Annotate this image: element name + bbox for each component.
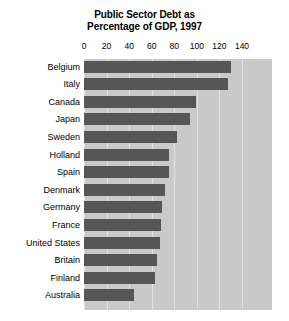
bar-row	[84, 272, 155, 284]
y-axis-category-labels: BelgiumItalyCanadaJapanSwedenHollandSpai…	[0, 59, 80, 310]
bar-united-states	[84, 237, 160, 249]
bar-japan	[84, 113, 190, 125]
bar-row	[84, 113, 190, 125]
category-label-britain: Britain	[0, 254, 80, 266]
category-label-denmark: Denmark	[0, 184, 80, 196]
category-label-belgium: Belgium	[0, 61, 80, 73]
plot-area	[84, 59, 272, 310]
bar-france	[84, 219, 161, 231]
x-tick-label-40: 40	[124, 41, 133, 51]
bar-canada	[84, 96, 196, 108]
x-tick-label-60: 60	[147, 41, 156, 51]
bar-italy	[84, 78, 228, 90]
category-label-spain: Spain	[0, 166, 80, 178]
category-label-italy: Italy	[0, 78, 80, 90]
category-label-germany: Germany	[0, 201, 80, 213]
bar-britain	[84, 254, 157, 266]
bar-row	[84, 184, 165, 196]
bar-holland	[84, 149, 169, 161]
x-tick-label-0: 0	[82, 41, 87, 51]
category-label-japan: Japan	[0, 113, 80, 125]
bar-row	[84, 149, 169, 161]
category-label-united-states: United States	[0, 237, 80, 249]
bars-layer	[84, 59, 272, 310]
bar-row	[84, 219, 161, 231]
bar-germany	[84, 201, 162, 213]
bar-chart: Public Sector Debt as Percentage of GDP,…	[0, 0, 289, 321]
category-label-france: France	[0, 219, 80, 231]
x-tick-label-80: 80	[170, 41, 179, 51]
chart-title: Public Sector Debt as Percentage of GDP,…	[0, 9, 289, 32]
bar-australia	[84, 289, 134, 301]
x-tick-label-140: 140	[235, 41, 249, 51]
category-label-holland: Holland	[0, 149, 80, 161]
category-label-australia: Australia	[0, 289, 80, 301]
bar-denmark	[84, 184, 165, 196]
x-tick-label-100: 100	[190, 41, 204, 51]
bar-row	[84, 289, 134, 301]
bar-row	[84, 78, 228, 90]
bar-sweden	[84, 131, 177, 143]
bar-row	[84, 237, 160, 249]
bar-spain	[84, 166, 169, 178]
bar-row	[84, 96, 196, 108]
bar-row	[84, 131, 177, 143]
bar-finland	[84, 272, 155, 284]
bar-row	[84, 201, 162, 213]
bar-row	[84, 254, 157, 266]
category-label-sweden: Sweden	[0, 131, 80, 143]
x-tick-label-120: 120	[212, 41, 226, 51]
bar-row	[84, 61, 231, 73]
x-tick-label-20: 20	[102, 41, 111, 51]
chart-title-line-1: Public Sector Debt as	[0, 9, 289, 21]
bar-belgium	[84, 61, 231, 73]
category-label-canada: Canada	[0, 96, 80, 108]
category-label-finland: Finland	[0, 272, 80, 284]
chart-title-line-2: Percentage of GDP, 1997	[0, 21, 289, 33]
bar-row	[84, 166, 169, 178]
x-axis-tick-labels: 020406080100120140	[0, 41, 289, 53]
